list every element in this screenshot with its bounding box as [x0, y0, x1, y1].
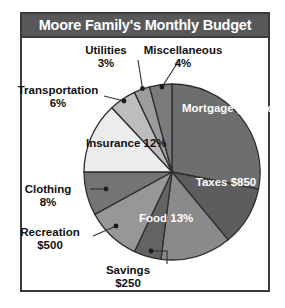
page-title: Moore Family's Monthly Budget: [39, 18, 252, 33]
pie-label-recreation: Recreation $500: [6, 226, 94, 251]
pie-label-food-value: 13%: [170, 212, 193, 224]
pie-label-utilities: Utilities 3%: [74, 44, 138, 69]
pie-label-savings: Savings $250: [90, 264, 166, 289]
pie-label-insurance-name: Insurance: [86, 137, 140, 149]
pie-label-transportation-value: 6%: [6, 97, 110, 110]
pie-chart-figure: Moore Family's Monthly Budget: [0, 0, 285, 308]
pie-label-savings-name: Savings: [106, 264, 150, 276]
pie-label-utilities-value: 3%: [74, 57, 138, 70]
chart-title-bar: Moore Family's Monthly Budget: [20, 12, 270, 38]
pie-label-food: Food 13%: [139, 212, 187, 225]
leader-dot-miscellaneous: [160, 85, 165, 90]
pie-label-insurance: Insurance 12%: [86, 137, 166, 150]
pie-plot-area: [20, 38, 270, 292]
pie-label-clothing-value: 8%: [10, 196, 86, 209]
leader-dot-transportation: [122, 99, 127, 104]
pie-label-mortgage-payment-name2: payment: [237, 102, 284, 114]
pie-label-taxes-value: $850: [231, 176, 257, 188]
pie-label-miscellaneous-value: 4%: [137, 57, 229, 70]
pie-label-mortgage-payment: Mortgage payment 22%: [182, 102, 256, 115]
pie-label-miscellaneous: Miscellaneous 4%: [137, 44, 229, 69]
pie-label-food-name: Food: [139, 212, 167, 224]
pie-svg: [20, 38, 270, 292]
pie-label-taxes: Taxes $850: [195, 176, 257, 189]
pie-label-utilities-name: Utilities: [85, 44, 127, 56]
pie-label-mortgage-payment-name: Mortgage: [182, 102, 234, 114]
pie-label-savings-value: $250: [90, 277, 166, 290]
pie-label-recreation-value: $500: [6, 239, 94, 252]
pie-label-transportation-name: Transportation: [18, 84, 99, 96]
pie-label-clothing: Clothing 8%: [10, 183, 86, 208]
leader-dot-clothing: [104, 187, 109, 192]
pie-label-clothing-name: Clothing: [25, 183, 72, 195]
pie-label-miscellaneous-name: Miscellaneous: [144, 44, 223, 56]
pie-label-insurance-value: 12%: [144, 137, 167, 149]
leader-dot-savings: [149, 249, 154, 254]
pie-label-taxes-name: Taxes: [196, 176, 228, 188]
pie-label-transportation: Transportation 6%: [6, 84, 110, 109]
leader-dot-recreation: [114, 224, 119, 229]
leader-dot-utilities: [140, 86, 145, 91]
pie-label-recreation-name: Recreation: [20, 226, 79, 238]
pie-slice-mortgage-payment: [172, 84, 260, 189]
